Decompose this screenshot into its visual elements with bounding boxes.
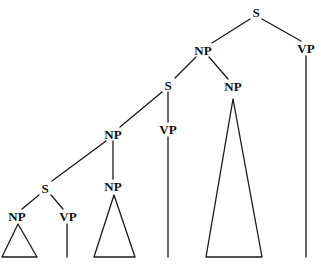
- triangle-np-3: [94, 195, 135, 257]
- tree-node-np-2: NP: [104, 128, 121, 141]
- triangle-np-big: [206, 99, 262, 257]
- tree-edge-np-1-to-s-2: [175, 57, 196, 78]
- tree-node-np-leaf: NP: [8, 210, 25, 223]
- tree-node-vp-mid: VP: [159, 123, 176, 136]
- tree-node-s-root: S: [252, 6, 259, 19]
- tree-edge-s-root-to-np-1: [212, 19, 250, 43]
- syntax-tree-diagram: SNPVPSNPNPVPSNPNPVP: [0, 0, 321, 266]
- triangles-group: [2, 99, 262, 257]
- tree-node-np-3: NP: [104, 180, 121, 193]
- tree-edge-s-3-to-vp-leaf: [51, 195, 63, 209]
- tree-edge-s-root-to-vp-right: [262, 19, 301, 41]
- tree-edge-s-2-to-np-2: [120, 92, 162, 127]
- tree-node-np-1: NP: [194, 44, 211, 57]
- tree-edge-s-3-to-np-leaf: [22, 195, 39, 209]
- tree-node-s-3: S: [41, 182, 48, 195]
- tree-node-vp-right: VP: [297, 42, 314, 55]
- tree-edge-np-1-to-np-big: [209, 57, 228, 79]
- tree-node-vp-leaf: VP: [59, 210, 76, 223]
- triangle-np-leaf: [2, 224, 37, 257]
- tree-edge-np-2-to-s-3: [52, 141, 106, 181]
- tree-node-np-big: NP: [224, 80, 241, 93]
- tree-node-s-2: S: [164, 79, 171, 92]
